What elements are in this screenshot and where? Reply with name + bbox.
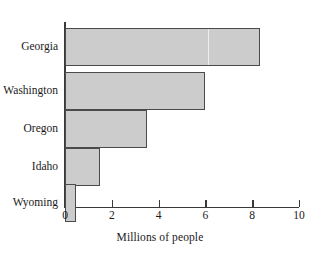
x-tick-4 — [159, 200, 160, 207]
x-tick-label-4: 4 — [139, 210, 179, 222]
bar-idaho — [65, 148, 100, 186]
x-axis-title: Millions of people — [0, 231, 320, 243]
x-tick-2 — [112, 200, 113, 207]
category-label-oregon: Oregon — [0, 123, 58, 135]
x-tick-label-2: 2 — [92, 210, 132, 222]
x-tick-8 — [252, 200, 253, 207]
bar-rect — [65, 148, 100, 186]
bar-rect — [65, 110, 147, 148]
scan-artifact-line — [208, 29, 209, 65]
x-axis-line — [64, 207, 299, 209]
bar-washington — [65, 72, 205, 110]
x-tick-label-10: 10 — [279, 210, 319, 222]
x-tick-label-0: 0 — [45, 210, 85, 222]
bar-rect — [65, 28, 260, 66]
category-label-washington: Washington — [0, 85, 58, 97]
category-label-georgia: Georgia — [0, 41, 58, 53]
x-tick-label-6: 6 — [185, 210, 225, 222]
bar-oregon — [65, 110, 147, 148]
bar-chart-figure: GeorgiaWashingtonOregonIdahoWyoming 0246… — [0, 0, 320, 257]
category-label-wyoming: Wyoming — [0, 197, 58, 209]
bar-georgia — [65, 28, 260, 66]
x-tick-label-8: 8 — [232, 210, 272, 222]
x-tick-6 — [205, 200, 206, 207]
category-label-idaho: Idaho — [0, 161, 58, 173]
x-tick-10 — [299, 200, 300, 207]
bar-rect — [65, 72, 205, 110]
